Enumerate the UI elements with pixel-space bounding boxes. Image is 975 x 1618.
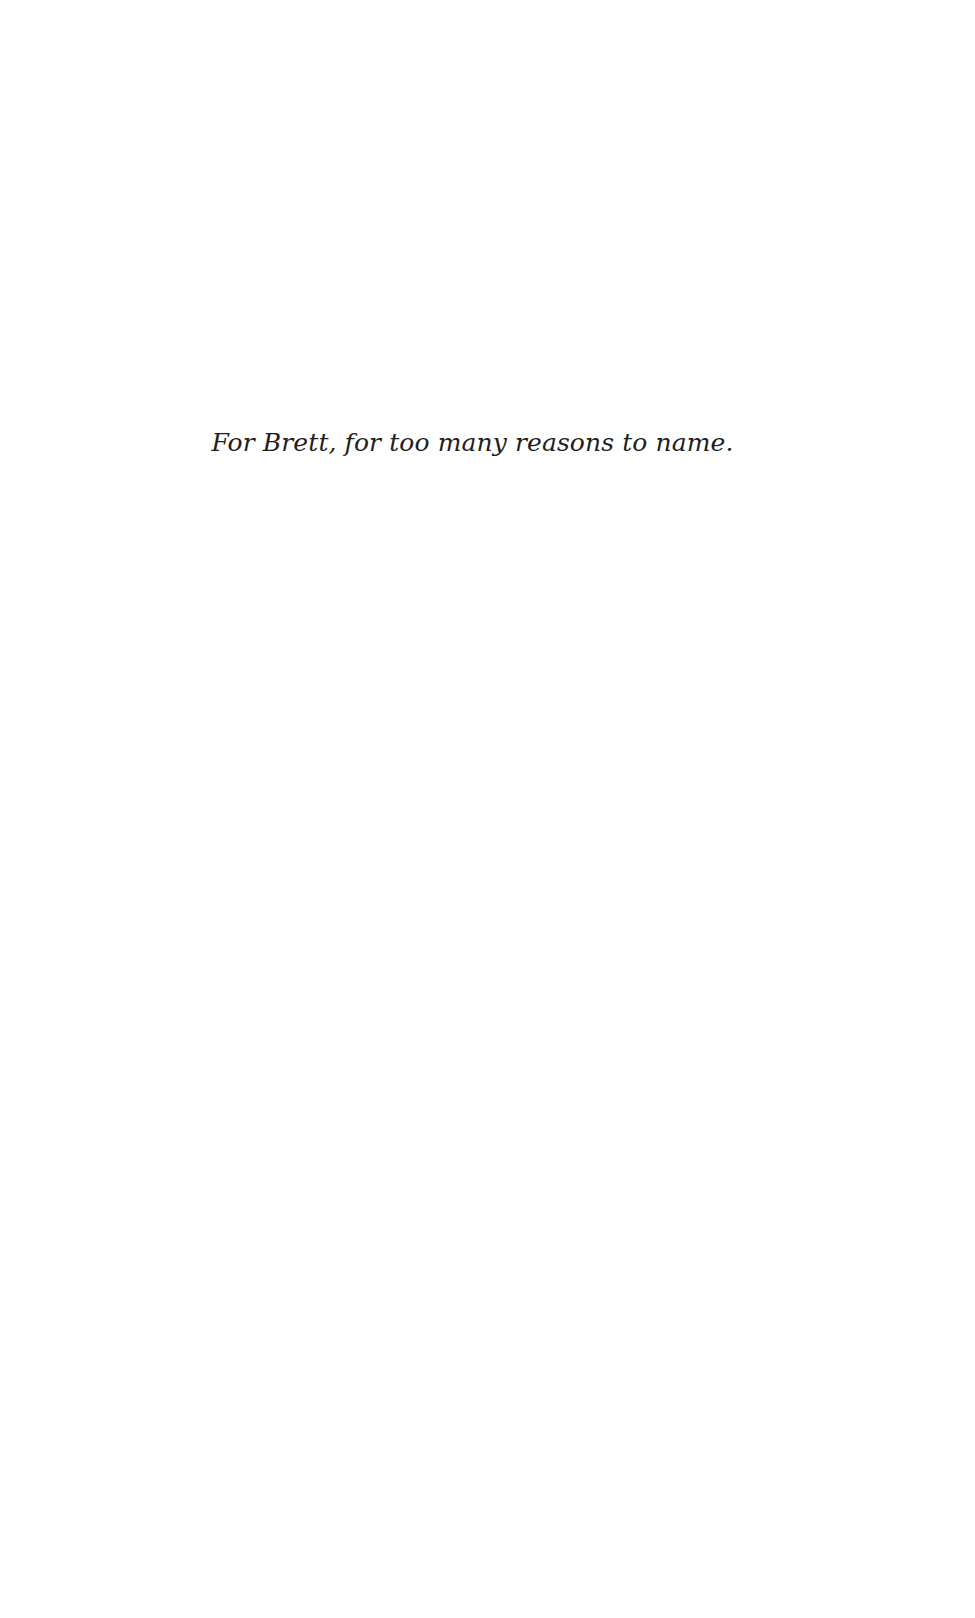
dedication-text: For Brett, for too many reasons to name. — [0, 427, 945, 460]
book-page: For Brett, for too many reasons to name. — [0, 0, 975, 1618]
